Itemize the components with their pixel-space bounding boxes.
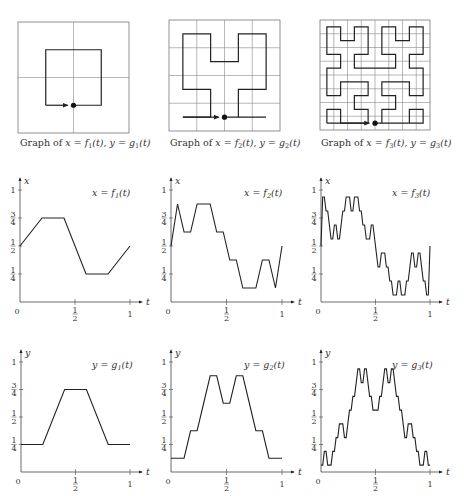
function-line [321,369,430,465]
svg-text:1: 1 [427,480,432,489]
svg-text:1: 1 [311,358,316,367]
svg-text:4: 4 [161,389,166,398]
svg-text:2: 2 [311,417,316,426]
svg-text:x: x [325,175,331,186]
svg-text:1: 1 [10,186,15,195]
svg-text:1: 1 [127,480,132,489]
function-line [171,376,282,459]
svg-text:4: 4 [161,218,166,227]
svg-text:1: 1 [11,358,16,367]
svg-text:0: 0 [315,307,320,316]
svg-text:t: t [298,466,302,477]
svg-text:x: x [24,175,30,186]
svg-text:t: t [298,296,302,307]
svg-text:4: 4 [11,389,16,398]
x-chart-2: xt14123411210x = f2(t) [161,175,302,323]
start-point-dot [222,115,227,120]
svg-text:t: t [146,466,150,477]
svg-text:1: 1 [427,310,432,319]
svg-text:x: x [175,175,181,186]
svg-text:2: 2 [72,314,77,323]
svg-text:4: 4 [161,274,166,283]
svg-text:4: 4 [161,444,166,453]
svg-text:0: 0 [165,307,170,316]
svg-text:x = f2(t): x = f2(t) [244,187,283,200]
function-line [21,390,130,445]
hilbert-curve-figure: Graph of x = f1(t), y = g1(t) Graph of x… [0,0,464,496]
svg-text:2: 2 [224,314,229,323]
svg-text:4: 4 [311,389,316,398]
svg-text:1: 1 [161,186,166,195]
svg-text:2: 2 [161,417,166,426]
svg-text:2: 2 [10,246,15,255]
svg-text:y = g2(t): y = g2(t) [243,359,285,372]
start-point-dot [71,103,76,108]
svg-text:0: 0 [165,477,170,486]
svg-text:y = g1(t): y = g1(t) [91,359,133,372]
svg-text:1: 1 [127,310,132,319]
svg-text:4: 4 [11,444,16,453]
svg-text:1: 1 [279,310,284,319]
start-point-dot [372,121,377,126]
curve-panel-1 [18,22,129,133]
svg-text:t: t [446,296,450,307]
svg-text:2: 2 [373,484,378,493]
svg-text:2: 2 [73,484,78,493]
x-chart-3: xt14123411210x = f3(t) [311,175,450,323]
svg-text:0: 0 [315,477,320,486]
svg-text:2: 2 [311,246,316,255]
function-line [20,218,130,274]
curve-panel-3 [320,20,430,130]
svg-text:2: 2 [373,314,378,323]
caption-2: Graph of x = f2(t), y = g2(t) [170,137,301,150]
svg-text:4: 4 [10,274,15,283]
curve-panel-2 [169,20,280,131]
function-line [171,204,282,288]
svg-text:4: 4 [311,444,316,453]
svg-text:x = f1(t): x = f1(t) [92,187,131,200]
svg-text:4: 4 [311,274,316,283]
svg-text:1: 1 [161,358,166,367]
svg-text:1: 1 [279,480,284,489]
svg-text:4: 4 [311,218,316,227]
svg-text:y: y [24,347,31,358]
y-chart-3: yt14123411210y = g3(t) [311,347,450,493]
svg-text:t: t [446,466,450,477]
svg-text:2: 2 [11,417,16,426]
function-line [321,197,430,295]
svg-text:t: t [146,296,150,307]
svg-text:2: 2 [161,246,166,255]
svg-text:x = f3(t): x = f3(t) [392,187,431,200]
x-chart-1: xt14123411210x = f1(t) [10,175,150,323]
caption-3: Graph of x = f3(t), y = g3(t) [321,137,452,150]
svg-text:0: 0 [14,307,19,316]
svg-text:y: y [174,347,181,358]
y-chart-2: yt14123411210y = g2(t) [161,347,302,493]
y-chart-1: yt14123411210y = g1(t) [11,347,150,493]
svg-text:0: 0 [15,477,20,486]
caption-1: Graph of x = f1(t), y = g1(t) [20,137,151,150]
svg-text:2: 2 [224,484,229,493]
svg-text:4: 4 [10,218,15,227]
svg-text:y: y [324,347,331,358]
svg-text:y = g3(t): y = g3(t) [391,359,433,372]
svg-text:1: 1 [311,186,316,195]
